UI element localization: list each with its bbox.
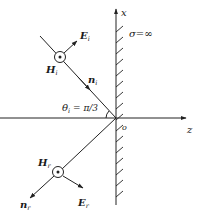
origin-label: o (122, 123, 127, 132)
hatch-mark (116, 158, 123, 164)
z-axis-label: z (186, 124, 193, 135)
hatch-mark (116, 70, 123, 76)
hatch-mark (116, 136, 123, 142)
hatch-mark (116, 180, 123, 186)
diagram-canvas: x z o σ=∞ Ei Hi ni θi = π/3 Hr Er nr (0, 0, 198, 222)
n-reflected-label: nr (20, 199, 31, 212)
reflected-direction-arrow (30, 176, 54, 198)
hatch-mark (116, 147, 123, 153)
hatch-mark (116, 114, 123, 120)
hatch-mark (116, 103, 123, 109)
hatch-mark (116, 92, 123, 98)
x-axis-label: x (121, 7, 127, 18)
hatch-mark (116, 169, 123, 175)
hatch-mark (116, 59, 123, 65)
h-reflected-out-of-page-icon (53, 167, 64, 178)
reflected-ray (62, 118, 116, 169)
e-reflected-arrow (63, 176, 83, 188)
n-incident-label: ni (88, 74, 97, 87)
e-incident-label: Ei (79, 30, 90, 43)
incidence-angle-arc (106, 111, 109, 118)
hatch-mark (116, 48, 123, 54)
hatch-mark (116, 191, 123, 197)
hatch-mark (116, 81, 123, 87)
hatch-mark (116, 26, 123, 32)
conductor-hatching (116, 26, 123, 197)
e-incident-arrow (64, 41, 77, 53)
conductivity-label: σ=∞ (129, 28, 153, 39)
e-reflected-label: Er (77, 197, 90, 210)
h-reflected-label: Hr (37, 157, 51, 170)
incidence-angle-label: θi = π/3 (62, 102, 98, 115)
h-incident-label: Hi (45, 64, 58, 77)
hatch-mark (116, 37, 123, 43)
h-incident-out-of-page-icon (55, 52, 66, 63)
